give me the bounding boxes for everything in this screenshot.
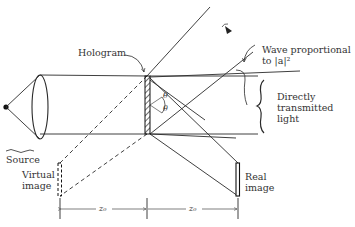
theta-top-label: θ <box>163 91 168 101</box>
virtual-label-1: Virtual <box>22 170 55 180</box>
eye-icon <box>225 26 232 34</box>
upper-cross-ray <box>150 80 205 120</box>
beam-top <box>40 75 147 76</box>
upper-diffracted-ray <box>147 7 210 76</box>
virtual-label-2: image <box>22 181 51 191</box>
source-ray-top <box>6 75 40 107</box>
direct-label-2: transmitted <box>277 103 333 113</box>
virtual-ray-top <box>60 76 147 163</box>
hologram-label: Hologram <box>78 48 126 58</box>
wave-label-2: to |a|² <box>262 56 290 66</box>
wave-label: Wave proportional <box>262 45 351 55</box>
direct-label-3: light <box>277 114 299 124</box>
hologram-diagram <box>0 0 355 227</box>
brace-icon <box>257 80 264 133</box>
virtual-image <box>58 163 62 196</box>
lens <box>32 75 48 139</box>
real-ray-bottom <box>150 134 238 196</box>
real-label-1: Real <box>245 172 266 182</box>
wave-front <box>236 70 247 105</box>
direct-label-1: Directly <box>277 92 315 102</box>
wave-leader <box>244 45 255 62</box>
real-image <box>236 163 240 196</box>
source-label: Source <box>6 155 40 165</box>
hologram-plate <box>145 76 150 134</box>
hologram-leader <box>125 55 144 72</box>
source-ray-bottom <box>6 107 40 139</box>
virtual-ray-bottom <box>60 134 147 196</box>
source-tilde <box>6 150 34 153</box>
theta-bottom-label: θ <box>163 104 168 114</box>
real-label-2: image <box>245 183 274 193</box>
z0-left-label: z₀ <box>99 204 106 214</box>
direct-bottom-tilt <box>150 134 236 138</box>
z0-right-label: z₀ <box>189 204 196 214</box>
